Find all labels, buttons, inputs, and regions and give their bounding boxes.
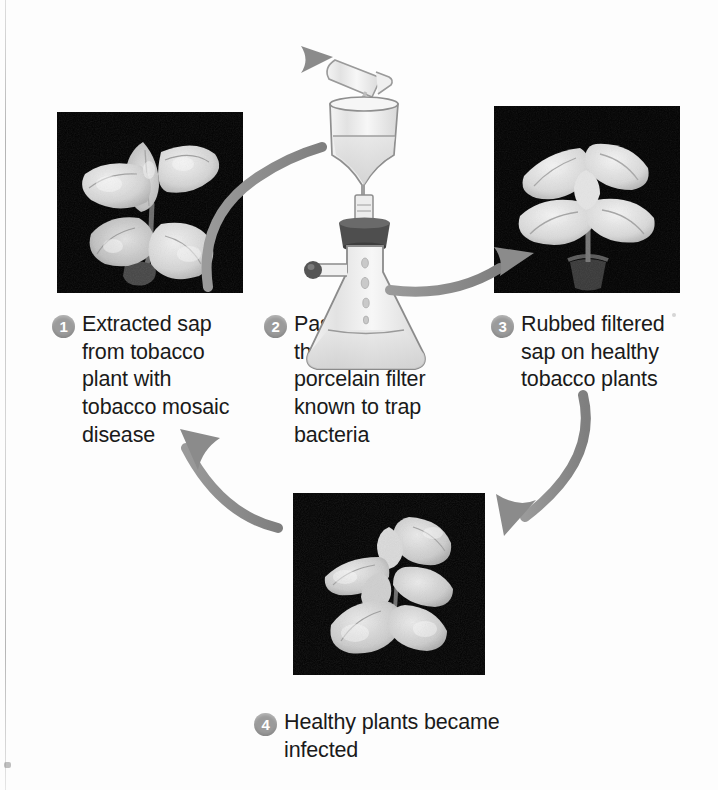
scan-speck xyxy=(4,762,11,768)
test-tube xyxy=(327,60,392,142)
caption-step-2: 2 Passed sap through a porcelain filter … xyxy=(264,311,454,449)
rubber-stopper xyxy=(339,218,390,252)
step-badge-2: 2 xyxy=(264,315,287,338)
caption-text-4: Healthy plants became infected xyxy=(284,709,500,764)
porcelain-funnel xyxy=(330,97,398,221)
caption-step-1: 1 Extracted sap from tobacco plant with … xyxy=(52,311,242,449)
healthy-tobacco-plant-photo xyxy=(494,106,680,293)
caption-step-3: 3 Rubbed filtered sap on healthy tobacco… xyxy=(491,311,691,394)
caption-text-3: Rubbed filtered sap on healthy tobacco p… xyxy=(521,311,665,394)
arrow-step3-to-step4 xyxy=(496,395,586,536)
caption-text-1: Extracted sap from tobacco plant with to… xyxy=(82,311,229,449)
caption-step-4: 4 Healthy plants became infected xyxy=(254,709,554,764)
infected-plant-artwork xyxy=(293,493,485,675)
figure-canvas: 1 Extracted sap from tobacco plant with … xyxy=(0,0,718,790)
healthy-plant-artwork xyxy=(494,106,680,293)
step-badge-1: 1 xyxy=(52,315,75,338)
scan-edge-line xyxy=(5,0,6,790)
caption-text-2: Passed sap through a porcelain filter kn… xyxy=(294,311,425,449)
step-badge-4: 4 xyxy=(254,713,277,736)
diseased-tobacco-plant-photo xyxy=(57,112,243,293)
step-badge-3: 3 xyxy=(491,315,514,338)
newly-infected-tobacco-plant-photo xyxy=(293,493,485,675)
diseased-plant-artwork xyxy=(57,112,243,293)
